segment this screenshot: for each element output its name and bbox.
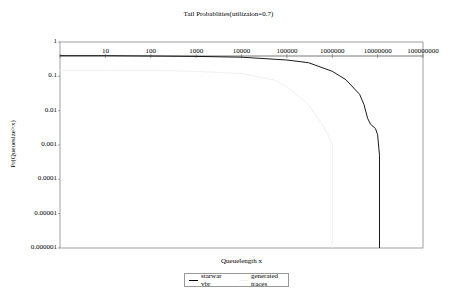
x-tick-label: 100000 — [276, 47, 297, 55]
y-tick-label: 0.001 — [41, 140, 57, 148]
y-tick-label: 0.01 — [45, 106, 57, 114]
legend-item-generated-traces: generated traces — [227, 272, 288, 288]
x-tick-label: 100 — [146, 47, 157, 55]
y-tick-label: 0.00001 — [34, 209, 57, 217]
x-tick-label: 100000000 — [407, 47, 439, 55]
legend-label: starwar vbr — [201, 272, 227, 288]
x-tick-label: 10 — [102, 47, 109, 55]
x-tick-label: 1000000 — [320, 47, 345, 55]
chart-title: Tail Probablities(utilizaion=0.7) — [0, 10, 457, 18]
x-tick-label: 10000 — [233, 47, 251, 55]
y-tick-label: 0.000001 — [31, 243, 57, 251]
x-axis-label: Queuelength x — [60, 257, 423, 265]
x-tick-label: 10000000 — [364, 47, 392, 55]
legend: starwar vbr generated traces — [184, 273, 289, 287]
legend-item-starwar-vbr: starwar vbr — [185, 272, 227, 288]
y-tick-label: 0.0001 — [38, 174, 57, 182]
y-axis-label: Pr(Queuesize>x) — [9, 99, 17, 189]
legend-line-icon — [239, 280, 248, 281]
y-tick-label: 0.1 — [48, 71, 57, 79]
plot-area — [60, 42, 423, 248]
legend-line-icon — [189, 280, 198, 281]
x-tick-label: 1000 — [189, 47, 203, 55]
legend-label: generated traces — [251, 272, 288, 288]
y-tick-label: 1 — [54, 37, 58, 45]
